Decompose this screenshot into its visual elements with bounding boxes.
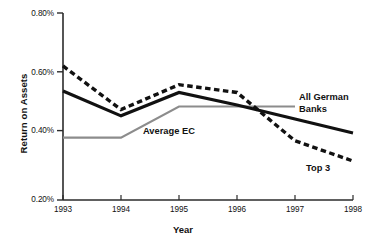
roa-line-chart: Return on Assets 0.80% 0.60% 0.40% 0.20%… [0,0,366,243]
series-label-average-ec: Average EC [143,126,195,138]
series-label-all-german-banks: All German Banks [299,92,366,115]
plot-area [0,0,366,243]
x-axis-title: Year [0,224,366,235]
series-label-top-3: Top 3 [306,163,330,175]
